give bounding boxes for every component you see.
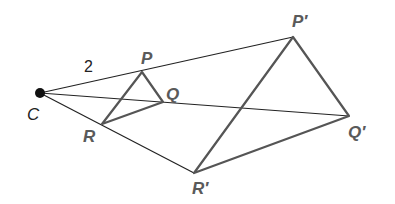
center-point <box>35 88 45 98</box>
label-p-prime: P′ <box>292 12 308 31</box>
label-q-prime: Q′ <box>348 123 366 142</box>
label-scale: 2 <box>84 58 93 75</box>
label-q: Q <box>166 85 179 104</box>
dilation-diagram: C 2 P Q R P′ Q′ R′ <box>0 0 395 204</box>
triangle-pqr-image <box>194 37 349 173</box>
label-p: P <box>141 49 153 68</box>
label-r-prime: R′ <box>192 179 209 198</box>
label-r: R <box>83 127 96 146</box>
diagram-svg: C 2 P Q R P′ Q′ R′ <box>0 0 395 204</box>
label-c: C <box>27 105 40 124</box>
ray-c-q <box>40 93 349 116</box>
